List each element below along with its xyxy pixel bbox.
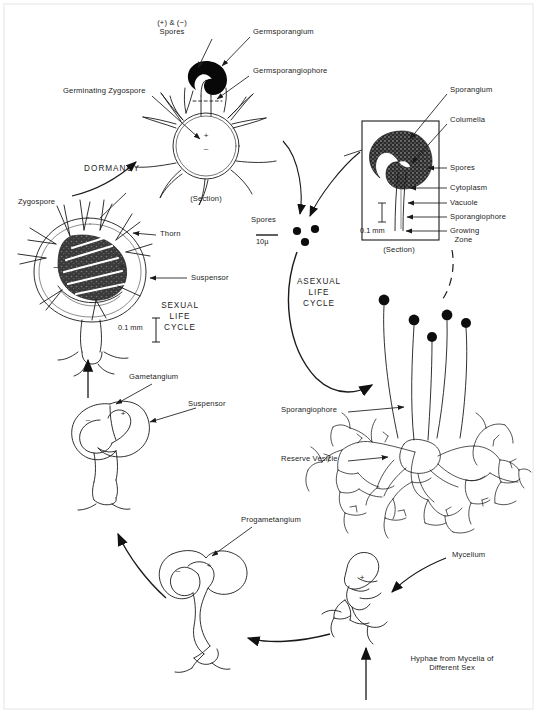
label-section-germinating: (Section)	[176, 194, 236, 203]
leader-line-progametangium	[212, 527, 252, 556]
scale-label-0-1-mm-zygospore: 0.1 mm	[118, 323, 143, 332]
label-reserve-vesicle: Reserve Vesicle	[281, 454, 338, 463]
sexual-life-cycle-caption: SEXUALLIFECYCLE	[150, 300, 210, 333]
leader-lines-top	[152, 37, 250, 139]
label-germsporangium: Germsporangium	[253, 27, 314, 36]
plus-sign-mark: +	[121, 409, 126, 418]
plus-sign-mark: +	[207, 561, 212, 570]
label-progametangium: Progametangium	[241, 515, 301, 524]
progametangium-illustration	[159, 551, 247, 673]
plus-sign-mark: +	[360, 573, 365, 582]
figure-canvas: + –	[0, 0, 537, 713]
label-suspensor-gametangium: Suspensor	[188, 399, 226, 408]
label-germsporangiophore: Germsporangiophore	[253, 66, 327, 75]
label-spores-sporangium: Spores	[450, 163, 475, 172]
label-columella: Columella	[450, 115, 485, 124]
label-suspensor-zygospore: Suspensor	[191, 273, 229, 282]
minus-sign-mark: –	[176, 566, 181, 575]
arrow-hyphae-to-progametangium	[248, 634, 330, 641]
minus-sign-mark: –	[204, 144, 209, 153]
asexual-cycle-arrow	[289, 252, 372, 392]
label-mycelium: Mycelium	[452, 550, 485, 559]
label-zygospore: Zygospore	[18, 197, 55, 206]
label-vacuole: Vacuole	[450, 198, 478, 207]
label-sporangium: Sporangium	[450, 85, 492, 94]
dashed-link-inset	[442, 250, 453, 300]
label-growing-zone: Growing Zone	[450, 226, 479, 245]
sporangium-inset-box	[362, 121, 439, 240]
label-gametangium: Gametangium	[129, 372, 178, 381]
arrow-progametangium-to-gametangium	[118, 534, 166, 598]
hyphae-illustration	[322, 552, 387, 644]
arrows-to-spores	[283, 141, 360, 216]
label-thorn: Thorn	[160, 229, 181, 238]
label-hyphae-different-sex: Hyphae from Mycelia of Different Sex	[382, 654, 522, 673]
gametangium-illustration	[72, 401, 150, 510]
minus-sign-mark: –	[86, 415, 91, 424]
label-sporangiophore-inset: Sporangiophore	[450, 212, 506, 221]
plus-sign-mark: +	[119, 262, 124, 272]
minus-sign-mark: –	[53, 262, 58, 272]
zygospore-illustration	[18, 200, 152, 376]
lifecycle-diagram-artwork: + –	[0, 0, 537, 713]
asexual-life-cycle-caption: ASEXUALLIFECYCLE	[288, 276, 350, 309]
scale-label-0-1-mm-sporangium: 0.1 mm	[360, 226, 385, 235]
free-spores-group	[293, 225, 319, 246]
mycelium-illustration	[306, 295, 531, 538]
label-plus-and-minus-spores: (+) & (−) Spores	[132, 18, 212, 37]
plus-sign-mark: +	[204, 131, 209, 140]
scale-label-10-micron: 10µ	[256, 237, 268, 246]
dormancy-caption: DORMANCY	[72, 163, 152, 174]
label-section-sporangium: (Section)	[369, 245, 429, 254]
label-germinating-zygospore: Germinating Zygospore	[63, 86, 146, 95]
leader-lines-gametangium	[116, 384, 196, 422]
label-sporangiophore-mycelium: Sporangiophore	[281, 405, 337, 414]
label-spores-free: Spores	[251, 215, 276, 224]
label-cytoplasm: Cytoplasm	[450, 183, 487, 192]
